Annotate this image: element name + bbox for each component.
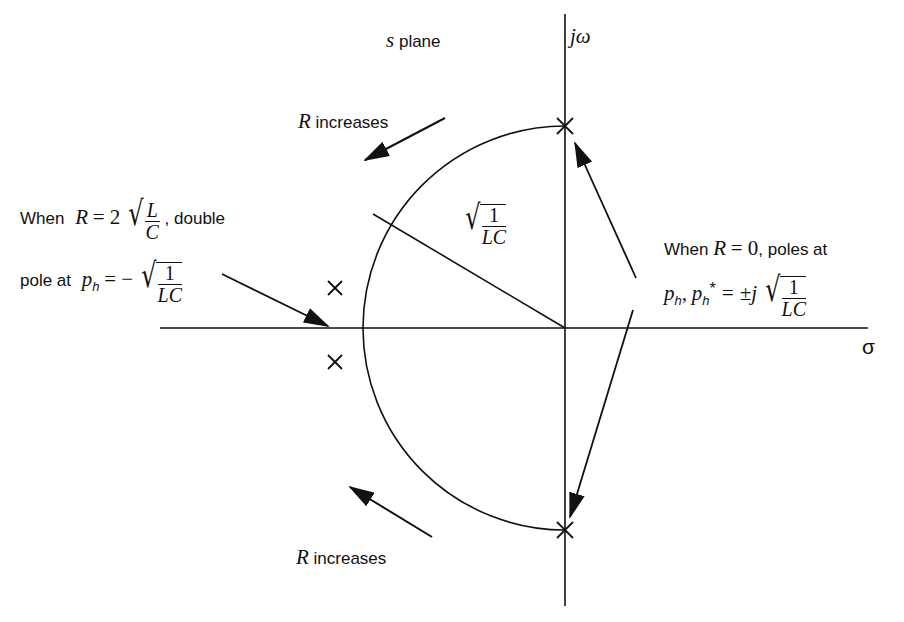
equals-two: = 2 [93,205,121,229]
pole-marker-lower-left [328,355,342,369]
arrow-r-increases-bottom [350,487,432,537]
poles-at-text: , poles at [758,240,827,259]
arrow-to-double-pole [222,274,328,326]
radical-icon: √ [465,200,480,248]
s-var: s [386,28,394,52]
zero-r-label-line1: When R = 0, poles at [664,238,827,259]
r-var: R [296,545,309,569]
equals-minus: = − [104,267,133,291]
r-increases-bottom-label: R increases [296,547,386,568]
radical-icon: √ [141,258,156,306]
sqrt-radius: √ 1 LC [462,200,506,248]
radical-icon: √ [128,196,143,243]
real-axis-label: σ [862,336,875,357]
fraction: L C [145,200,160,243]
when-text: When [664,240,708,259]
fraction: 1 LC [158,263,182,306]
numerator: 1 [158,263,182,285]
sigma-text: σ [862,335,875,358]
sqrt-1-over-lc: √ 1 LC [138,258,182,306]
h-subscript: h [675,293,682,308]
h-subscript: h [92,279,99,294]
fraction: 1 LC [782,277,806,320]
increases-text: increases [314,549,387,568]
equals-plus-minus-j: = ±j [720,281,757,305]
r-increases-top-label: R increases [298,111,388,132]
arrow-to-bottom-pole [570,310,633,517]
s-plane-label: s plane [386,30,441,51]
r-var: R [298,109,311,133]
double-pole-label-line1: When R = 2 √ L C , double [20,196,225,243]
arrow-to-top-pole [575,143,636,278]
double-text: , double [165,209,226,228]
increases-text: increases [316,113,389,132]
comma: , [682,281,687,305]
denominator: C [145,222,160,243]
pole-at-text: pole at [20,271,71,290]
radical-icon: √ [765,272,780,320]
sqrt-l-over-c: √ L C [125,196,160,243]
zero-r-label-line2: ph, ph* = ±j √ 1 LC [664,272,806,320]
radius-label: √ 1 LC [462,200,506,248]
equals-zero: = 0 [731,236,759,260]
pole-marker-upper-left [328,281,342,295]
when-text: When [20,209,64,228]
denominator: LC [158,285,182,306]
numerator: 1 [482,205,506,227]
numerator: 1 [782,277,806,299]
jw-text: jω [570,24,591,48]
r-var: R [713,236,726,260]
p-var: p [664,281,675,305]
p-var: p [692,281,703,305]
r-var: R [75,205,88,229]
plane-text: plane [399,32,441,51]
denominator: LC [782,299,806,320]
conjugate-superscript: * [709,280,715,297]
double-pole-label-line2: pole at ph = − √ 1 LC [20,258,182,306]
imaginary-axis-label: jω [570,26,591,47]
sqrt-1-over-lc: √ 1 LC [762,272,806,320]
fraction: 1 LC [482,205,506,248]
denominator: LC [482,227,506,248]
p-var: p [82,267,93,291]
numerator: L [145,200,160,222]
